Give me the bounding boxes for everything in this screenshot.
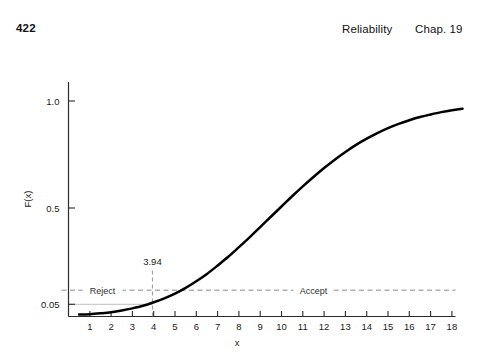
x-tick-label: 9 — [258, 321, 263, 332]
x-tick-label: 7 — [215, 321, 220, 332]
x-tick-label: 1 — [87, 321, 92, 332]
x-tick-label: 14 — [361, 321, 372, 332]
x-tick-label: 13 — [340, 321, 351, 332]
y-tick-label: 1.0 — [46, 96, 59, 107]
cdf-curve — [79, 109, 462, 315]
accept-region-label: Accept — [300, 286, 328, 296]
annotation-layer: RejectAccept — [62, 268, 456, 317]
label-layer: 1234567891011121314151617180.050.51.0xF(… — [22, 96, 457, 348]
y-tick-label: 0.5 — [46, 203, 59, 214]
x-tick-label: 2 — [108, 321, 113, 332]
x-tick-label: 12 — [319, 321, 330, 332]
cdf-plot-svg: RejectAccept 123456789101112131415161718… — [0, 0, 477, 361]
x-tick-label: 4 — [151, 321, 156, 332]
y-axis-title: F(x) — [22, 191, 33, 208]
x-tick-label: 15 — [383, 321, 394, 332]
x-tick-label: 16 — [404, 321, 415, 332]
y-tick-label: 0.05 — [41, 299, 60, 310]
x-axis-title: x — [235, 337, 240, 348]
x-tick-label: 17 — [425, 321, 436, 332]
axes-layer — [69, 82, 456, 317]
reject-region-label: Reject — [90, 286, 116, 296]
x-tick-label: 11 — [298, 321, 308, 332]
page-root: 422 Reliability Chap. 19 RejectAccept 12… — [0, 0, 477, 361]
x-tick-label: 3 — [130, 321, 135, 332]
x-tick-label: 18 — [447, 321, 458, 332]
x-tick-label: 5 — [172, 321, 177, 332]
x-tick-label: 6 — [194, 321, 199, 332]
cdf-plot: RejectAccept 123456789101112131415161718… — [0, 0, 477, 361]
critical-value-label: 3.94 — [143, 256, 162, 267]
x-tick-label: 10 — [276, 321, 287, 332]
x-tick-label: 8 — [236, 321, 241, 332]
curve-layer — [79, 109, 462, 315]
